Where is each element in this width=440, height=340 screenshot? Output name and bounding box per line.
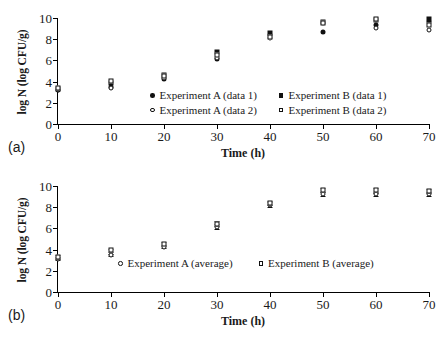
legend-b: Experiment A (average) Experiment B (ave… xyxy=(118,256,374,271)
legend-row: Experiment A (data 1) Experiment B (data… xyxy=(150,88,387,103)
legend-label: Experiment A (average) xyxy=(128,256,233,271)
error-bar-cap xyxy=(215,226,220,227)
data-point xyxy=(56,85,61,90)
y-axis-tick-label: 2 xyxy=(46,96,53,109)
y-axis-tick-label: 4 xyxy=(46,243,53,256)
open-circle-marker-icon xyxy=(150,108,155,113)
data-point xyxy=(374,25,379,30)
data-point xyxy=(374,188,379,193)
axes-b: 0246810010203040506070 xyxy=(57,186,429,293)
chart-panel-a: log N (log CFU/g) 0246810010203040506070… xyxy=(0,0,440,170)
x-axis-title-b: Time (h) xyxy=(57,314,429,329)
y-axis-tick xyxy=(53,186,58,187)
y-axis-tick-label: 2 xyxy=(46,264,53,277)
data-point xyxy=(321,29,326,34)
plot-area-b: log N (log CFU/g) 0246810010203040506070… xyxy=(0,168,440,338)
filled-square-marker-icon xyxy=(279,93,284,98)
legend-label: Experiment A (data 2) xyxy=(160,103,257,118)
legend-label: Experiment B (average) xyxy=(268,256,374,271)
y-axis-tick-label: 6 xyxy=(46,54,53,67)
y-axis-tick xyxy=(53,39,58,40)
data-point xyxy=(109,253,114,258)
data-point xyxy=(268,200,273,205)
data-point xyxy=(215,221,220,226)
panel-label-a: (a) xyxy=(8,139,25,155)
legend-a: Experiment A (data 1) Experiment B (data… xyxy=(150,88,387,117)
open-circle-marker-icon xyxy=(118,261,123,266)
y-axis-tick xyxy=(53,271,58,272)
x-axis-tick-label: 50 xyxy=(317,130,330,143)
y-axis-tick xyxy=(53,60,58,61)
figure: log N (log CFU/g) 0246810010203040506070… xyxy=(0,0,440,340)
y-axis-tick-label: 6 xyxy=(46,222,53,235)
legend-item: Experiment B (average) xyxy=(259,256,374,271)
data-point xyxy=(109,78,114,83)
data-point xyxy=(162,74,167,79)
filled-circle-marker-icon xyxy=(150,93,155,98)
x-axis-tick-label: 30 xyxy=(211,130,224,143)
y-axis-tick-label: 0 xyxy=(46,286,53,299)
legend-item: Experiment B (data 1) xyxy=(279,88,387,103)
x-axis-tick-label: 50 xyxy=(317,298,330,311)
data-point xyxy=(321,188,326,193)
x-axis-tick-label: 30 xyxy=(211,298,224,311)
open-square-marker-icon xyxy=(279,108,284,113)
x-axis-tick-label: 10 xyxy=(105,130,118,143)
data-point xyxy=(427,17,432,22)
data-point xyxy=(162,241,167,246)
x-axis-tick-label: 70 xyxy=(423,298,436,311)
y-axis-tick-label: 8 xyxy=(46,201,53,214)
data-point xyxy=(215,53,220,58)
x-axis-tick-label: 70 xyxy=(423,130,436,143)
x-axis-tick-label: 20 xyxy=(158,130,171,143)
data-point xyxy=(56,255,61,260)
x-axis-tick-label: 0 xyxy=(55,298,62,311)
data-point xyxy=(109,85,114,90)
legend-item: Experiment B (data 2) xyxy=(279,103,387,118)
y-axis-title-b: log N (log CFU/g) xyxy=(14,186,30,293)
data-point xyxy=(268,35,273,40)
legend-label: Experiment A (data 1) xyxy=(160,88,257,103)
plot-area-a: log N (log CFU/g) 0246810010203040506070… xyxy=(0,0,440,170)
legend-row: Experiment A (data 2) Experiment B (data… xyxy=(150,103,387,118)
data-point xyxy=(109,248,114,253)
legend-row: Experiment A (average) Experiment B (ave… xyxy=(118,256,374,271)
y-axis-title-a: log N (log CFU/g) xyxy=(14,18,30,125)
chart-panel-b: log N (log CFU/g) 0246810010203040506070… xyxy=(0,168,440,338)
y-axis-tick-label: 0 xyxy=(46,118,53,131)
x-axis-tick-label: 0 xyxy=(55,130,62,143)
y-axis-tick-label: 4 xyxy=(46,75,53,88)
data-point xyxy=(427,189,432,194)
y-axis-tick xyxy=(53,250,58,251)
x-axis-tick-label: 20 xyxy=(158,298,171,311)
y-axis-tick xyxy=(53,18,58,19)
open-square-marker-icon xyxy=(259,261,264,266)
y-axis-tick-label: 10 xyxy=(39,180,52,193)
x-axis-tick-label: 60 xyxy=(370,298,383,311)
data-point xyxy=(427,23,432,28)
legend-item: Experiment A (data 1) xyxy=(150,88,257,103)
y-axis-tick xyxy=(53,228,58,229)
y-axis-tick-label: 8 xyxy=(46,33,53,46)
legend-label: Experiment B (data 1) xyxy=(288,88,386,103)
y-axis-tick xyxy=(53,103,58,104)
y-axis-tick xyxy=(53,207,58,208)
panel-label-b: (b) xyxy=(8,307,25,323)
legend-item: Experiment A (data 2) xyxy=(150,103,257,118)
error-bar-cap xyxy=(215,229,220,230)
data-point xyxy=(321,21,326,26)
x-axis-title-a: Time (h) xyxy=(57,146,429,161)
x-axis-tick-label: 40 xyxy=(264,130,277,143)
data-point xyxy=(374,17,379,22)
legend-item: Experiment A (average) xyxy=(118,256,233,271)
y-axis-tick-label: 10 xyxy=(39,12,52,25)
x-axis-tick-label: 60 xyxy=(370,130,383,143)
x-axis-tick-label: 40 xyxy=(264,298,277,311)
y-axis-tick xyxy=(53,82,58,83)
x-axis-tick-label: 10 xyxy=(105,298,118,311)
legend-label: Experiment B (data 2) xyxy=(288,103,386,118)
data-point xyxy=(427,27,432,32)
